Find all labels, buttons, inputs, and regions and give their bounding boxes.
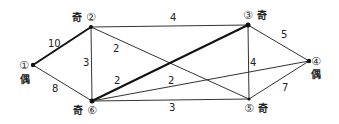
node-6-number: ⑥	[87, 104, 97, 117]
weight-1-2: 10	[48, 38, 61, 49]
node-3-vertex	[246, 23, 251, 28]
node-4-number: ④	[311, 55, 321, 68]
node-5-parity: 奇	[258, 102, 268, 114]
node-1-number: ①	[19, 59, 29, 72]
node-6-parity: 奇	[73, 104, 83, 116]
node-1-parity: 偶	[19, 73, 30, 85]
weight-3-4: 5	[281, 29, 287, 40]
weight-3-5: 4	[250, 57, 256, 68]
weight-2-3: 4	[170, 12, 176, 23]
weight-6-4: 2	[168, 75, 174, 86]
node-5-vertex	[247, 97, 250, 100]
edge-3-4	[248, 25, 309, 61]
weight-1-6: 8	[52, 83, 58, 94]
node-2-parity: 奇	[72, 11, 82, 23]
weighted-graph-diagram: 10 8 4 3 2 2 2 3 5 4 7 ① 偶 奇 ② ③ 奇 ④ 偶 ⑤	[0, 0, 339, 124]
edge-6-5	[92, 99, 249, 101]
node-3-number: ③	[243, 9, 253, 22]
edges	[33, 25, 309, 101]
edge-6-3	[92, 25, 248, 101]
edge-6-4	[92, 61, 309, 101]
edge-2-6	[91, 27, 92, 101]
edge-2-3	[91, 25, 248, 27]
edge-1-6	[33, 65, 92, 101]
node-2-number: ②	[86, 11, 96, 24]
node-4-parity: 偶	[310, 68, 321, 80]
weight-2-5: 2	[113, 43, 119, 54]
node-3-parity: 奇	[257, 9, 267, 21]
node-1-vertex	[31, 63, 35, 67]
weight-6-5: 3	[169, 102, 175, 113]
node-5-number: ⑤	[244, 102, 254, 115]
weight-5-4: 7	[282, 82, 288, 93]
weight-6-3: 2	[114, 75, 120, 86]
node-2-vertex	[89, 25, 93, 29]
edge-3-5	[248, 25, 249, 99]
weight-2-6: 3	[83, 57, 89, 68]
node-6-vertex	[90, 99, 95, 104]
